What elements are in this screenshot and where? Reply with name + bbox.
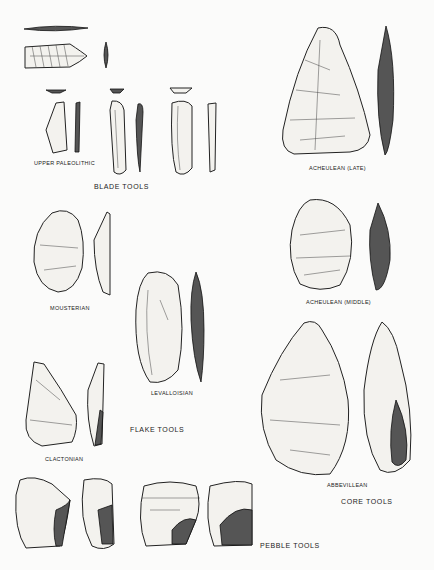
levalloisian-edge — [191, 272, 204, 382]
acheulean-late-face — [282, 27, 370, 154]
blade-3-face — [172, 101, 193, 174]
acheulean-middle-edge — [370, 203, 391, 290]
blade-section-1 — [46, 90, 66, 93]
acheulean-late-edge — [378, 26, 394, 155]
laurel-point-side — [24, 26, 88, 31]
levalloisian-face — [136, 272, 182, 383]
label-upper-paleolithic: UPPER PALEOLITHIC — [34, 160, 95, 166]
label-acheulean-late: ACHEULEAN (LATE) — [309, 165, 366, 171]
group-label-blade-tools: BLADE TOOLS — [94, 183, 149, 190]
pebble-tool-2-face — [140, 482, 199, 546]
blade-1-edge — [75, 102, 80, 152]
laurel-point-edge — [104, 42, 108, 68]
blade-3-edge — [208, 103, 216, 172]
group-label-core-tools: CORE TOOLS — [341, 498, 393, 505]
mousterian-edge — [94, 212, 110, 295]
blade-2-face — [110, 101, 126, 174]
label-acheulean-middle: ACHEULEAN (MIDDLE) — [306, 299, 371, 305]
blade-2-edge — [136, 104, 143, 172]
clactonian-face — [26, 362, 77, 446]
tool-illustrations — [0, 0, 434, 570]
group-label-pebble-tools: PEBBLE TOOLS — [260, 542, 320, 549]
blade-section-3 — [170, 88, 192, 93]
acheulean-middle-face — [290, 200, 351, 290]
mousterian-face — [34, 211, 84, 292]
blade-1-face — [46, 102, 67, 153]
label-clactonian: CLACTONIAN — [45, 456, 83, 462]
group-label-flake-tools: FLAKE TOOLS — [130, 426, 184, 433]
label-abbevillean: ABBEVILLEAN — [327, 482, 368, 488]
blade-section-2 — [110, 89, 124, 93]
label-mousterian: MOUSTERIAN — [50, 305, 90, 311]
laurel-point-face — [25, 44, 87, 68]
label-levalloisian: LEVALLOISIAN — [151, 390, 193, 396]
